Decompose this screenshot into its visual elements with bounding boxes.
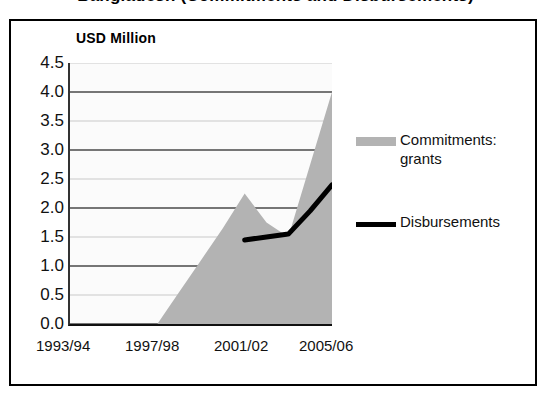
y-tick-0-5: 0.5	[20, 286, 64, 303]
x-axis-tick-labels: 1993/94 1997/98 2001/02 2005/06	[0, 338, 360, 362]
legend-label-commitments: Commitments: grants	[400, 130, 528, 168]
legend: Commitments: grants Disbursements	[356, 130, 536, 231]
y-tick-4-0: 4.0	[20, 83, 64, 100]
line-swatch-icon	[356, 212, 400, 227]
y-tick-3-0: 3.0	[20, 141, 64, 158]
plot-svg	[70, 63, 332, 324]
x-tick-1993-94: 1993/94	[36, 338, 90, 354]
x-tick-2005-06: 2005/06	[299, 338, 353, 354]
y-tick-1-5: 1.5	[20, 228, 64, 245]
y-tick-2-0: 2.0	[20, 199, 64, 216]
y-axis-title: USD Million	[76, 30, 156, 46]
chart-title: Bangladesh (Commitments and Disbursement…	[0, 0, 551, 6]
chart-figure: Bangladesh (Commitments and Disbursement…	[0, 0, 551, 399]
area-swatch-icon	[356, 130, 400, 146]
legend-item-disbursements: Disbursements	[356, 212, 536, 231]
legend-label-disbursements: Disbursements	[400, 212, 500, 231]
y-tick-1-0: 1.0	[20, 257, 64, 274]
x-tick-1997-98: 1997/98	[125, 338, 179, 354]
legend-item-commitments: Commitments: grants	[356, 130, 536, 168]
y-tick-3-5: 3.5	[20, 112, 64, 129]
y-tick-4-5: 4.5	[20, 54, 64, 71]
plot-area	[68, 63, 332, 326]
x-tick-2001-02: 2001/02	[214, 338, 268, 354]
y-tick-0-0: 0.0	[20, 315, 64, 332]
y-tick-2-5: 2.5	[20, 170, 64, 187]
